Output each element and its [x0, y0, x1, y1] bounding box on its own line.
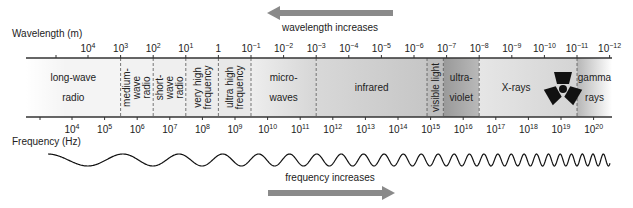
wavelength-increases-label: wavelength increases	[281, 22, 378, 33]
wavelength-tick-label: 10−3	[307, 42, 326, 54]
wavelength-tick-label: 10−4	[339, 42, 358, 54]
frequency-tick-label: 1014	[389, 123, 408, 135]
em-spectrum-diagram: wavelength increases Wavelength (m) long…	[0, 0, 633, 208]
band-label-infrared: infrared	[355, 82, 389, 93]
wavelength-tick-label: 10−6	[404, 42, 423, 54]
wavelength-tick-label: 10−11	[566, 42, 589, 54]
band-label-ultra-high-frequency: ultra highfrequency	[224, 66, 245, 110]
frequency-tick-label: 1016	[454, 123, 473, 135]
frequency-tick-label: 1010	[258, 123, 277, 135]
frequency-tick-label: 1018	[519, 123, 538, 135]
frequency-tick-label: 108	[195, 123, 210, 135]
band-gamma-rays	[577, 58, 612, 117]
frequency-tick-label: 1012	[323, 123, 342, 135]
wavelength-tick-label: 10−1	[241, 42, 260, 54]
frequency-tick-label: 109	[227, 123, 242, 135]
frequency-tick-label: 107	[162, 123, 177, 135]
wavelength-ticks: 104103102101110−110−210−310−410−510−610−…	[56, 42, 621, 58]
wavelength-increases-arrow	[267, 6, 393, 20]
frequency-tick-label: 104	[64, 123, 79, 135]
frequency-tick-label: 105	[97, 123, 112, 135]
wavelength-tick-label: 101	[178, 42, 193, 54]
wavelength-tick-label: 10−12	[598, 42, 621, 54]
wavelength-axis-label: Wavelength (m)	[12, 28, 82, 39]
frequency-tick-label: 1020	[584, 123, 603, 135]
wavelength-tick-label: 10−5	[372, 42, 391, 54]
band-label-x-rays: X-rays	[502, 82, 531, 93]
frequency-axis-label: Frequency (Hz)	[12, 136, 81, 147]
wavelength-tick-label: 102	[146, 42, 161, 54]
band-microwaves	[251, 58, 316, 117]
frequency-increases-arrow	[268, 186, 395, 200]
band-label-visible-light: visible light	[430, 63, 441, 112]
wavelength-tick-label: 104	[80, 42, 95, 54]
band-ultraviolet	[443, 58, 479, 117]
wavelength-tick-label: 103	[113, 42, 128, 54]
frequency-tick-label: 1017	[486, 123, 505, 135]
frequency-ticks: 1041051061071081091010101110121013101410…	[40, 117, 603, 135]
wavelength-tick-label: 1	[216, 43, 222, 54]
wavelength-tick-label: 10−9	[502, 42, 521, 54]
wavelength-tick-label: 10−10	[533, 42, 556, 54]
wavelength-tick-label: 10−2	[274, 42, 293, 54]
wavelength-tick-label: 10−7	[437, 42, 456, 54]
frequency-tick-label: 1019	[552, 123, 571, 135]
frequency-tick-label: 1015	[421, 123, 440, 135]
frequency-tick-label: 106	[130, 123, 145, 135]
band-label-very-high-frequency: very highfrequency	[192, 66, 213, 110]
frequency-tick-label: 1011	[291, 123, 309, 135]
frequency-tick-label: 1013	[356, 123, 375, 135]
frequency-increases-label: frequency increases	[285, 172, 375, 183]
wavelength-tick-label: 10−8	[470, 42, 489, 54]
band-label-short-wave-radio: short-waveradio	[154, 75, 185, 101]
frequency-wave	[48, 154, 610, 166]
